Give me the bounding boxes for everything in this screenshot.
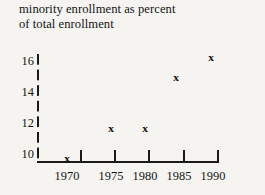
x-axis-tick-mark (183, 150, 185, 162)
x-axis-tick-label-1970: 1970 (47, 170, 87, 182)
y-axis-tick-16: 16 (10, 55, 34, 68)
x-axis-tick-mark (217, 150, 219, 162)
y-axis-tick-label: 16 (10, 55, 34, 67)
data-point-1975: x (104, 121, 118, 135)
y-axis-tick-label: 10 (10, 148, 34, 160)
data-point-1990: x (204, 50, 218, 64)
y-axis-tick-10: 10 (10, 148, 34, 161)
y-axis-line (37, 54, 39, 163)
data-point-1970: x (60, 151, 74, 165)
x-axis-tick-mark (114, 150, 116, 162)
y-axis-tick-12: 12 (10, 117, 34, 130)
x-axis-tick-label-1990: 1990 (193, 170, 233, 182)
x-axis-tick-mark (148, 150, 150, 162)
data-point-1985: x (169, 70, 183, 84)
plot-area: 16 14 12 10 1970 1975 1980 1985 1990 x x… (0, 0, 265, 195)
y-axis-tick-14: 14 (10, 86, 34, 99)
chart-root: minority enrollment as percent of total … (0, 0, 265, 195)
data-point-1980: x (138, 121, 152, 135)
x-axis-tick-mark (80, 150, 82, 162)
y-axis-tick-label: 14 (10, 86, 34, 98)
y-axis-tick-label: 12 (10, 117, 34, 129)
